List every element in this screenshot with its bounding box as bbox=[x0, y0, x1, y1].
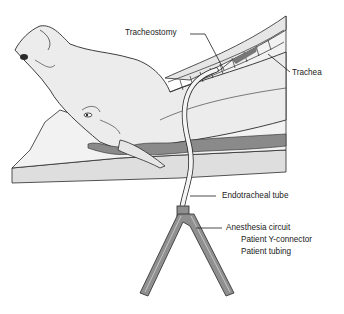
label-trachea: Trachea bbox=[292, 69, 322, 77]
label-patient-y-connector: Patient Y-connector bbox=[241, 236, 312, 244]
horse-tracheostomy-illustration bbox=[0, 0, 344, 314]
label-anesthesia-circuit: Anesthesia circuit bbox=[226, 224, 290, 232]
patient-y-connector bbox=[140, 206, 234, 296]
label-patient-tubing: Patient tubing bbox=[241, 248, 291, 256]
label-tracheostomy: Tracheostomy bbox=[125, 29, 177, 37]
nostril bbox=[20, 54, 28, 60]
label-endotracheal-tube: Endotracheal tube bbox=[222, 192, 288, 200]
